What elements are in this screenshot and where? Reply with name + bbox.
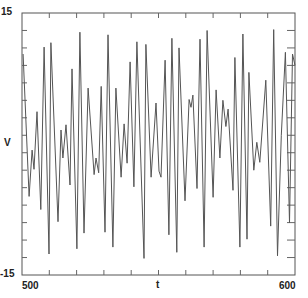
axis-ticks: [22, 13, 295, 275]
x-axis-title: t: [156, 279, 159, 290]
y-min-label: -15: [0, 268, 14, 279]
plot-frame: [22, 13, 295, 275]
x-min-label: 500: [22, 280, 39, 291]
voltage-trace: [23, 30, 295, 259]
y-axis-title: V: [4, 137, 11, 148]
y-max-label: 15: [1, 6, 12, 17]
x-max-label: 600: [279, 280, 296, 291]
line-chart: [0, 0, 308, 298]
